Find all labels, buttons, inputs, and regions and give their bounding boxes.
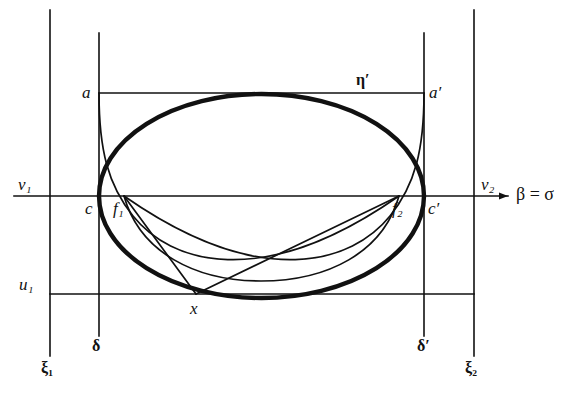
label-beta-equals-sigma: β = σ: [516, 185, 554, 203]
arc-f1-f2: [124, 196, 399, 281]
label-xi-1: ξ₁: [41, 360, 53, 376]
label-eta-prime: η′: [356, 72, 370, 88]
segment-x-f1: [124, 196, 196, 294]
geometry-figure: a a′ η′ v₁ v₂ β = σ c c′ f₁ f₂ u₁ x δ δ′…: [0, 0, 561, 399]
axis-arrowhead: [499, 193, 508, 200]
label-a: a: [82, 84, 91, 101]
label-u-1: u₁: [19, 276, 33, 293]
label-x: x: [190, 300, 198, 317]
label-a-prime: a′: [429, 84, 441, 101]
label-c-prime: c′: [428, 200, 439, 217]
label-v-2: v₂: [481, 176, 494, 193]
label-xi-2: ξ₂: [465, 360, 477, 376]
label-f-1: f₁: [113, 200, 124, 217]
label-delta: δ: [92, 338, 100, 354]
label-f-2: f₂: [392, 200, 403, 217]
label-v-1: v₁: [18, 176, 31, 193]
label-c: c: [85, 200, 93, 217]
label-delta-prime: δ′: [417, 338, 430, 354]
